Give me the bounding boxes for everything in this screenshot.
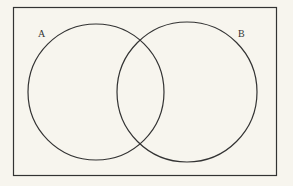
set-b-circle <box>117 22 257 162</box>
set-a-circle <box>28 24 164 160</box>
set-b-label: B <box>238 28 245 39</box>
set-a-label: A <box>38 28 45 39</box>
